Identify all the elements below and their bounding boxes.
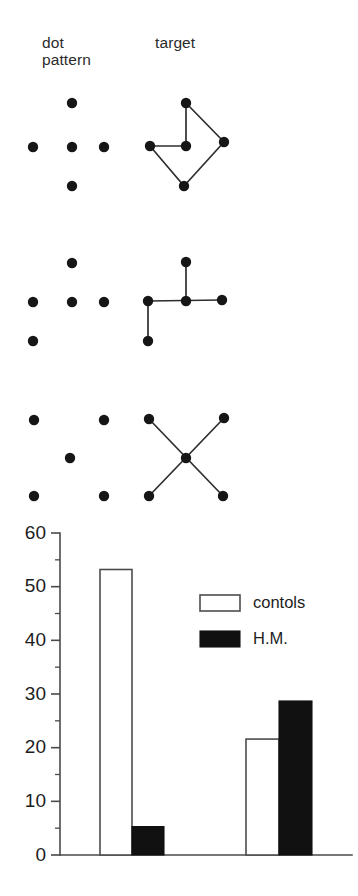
y-tick-label: 20 <box>25 736 46 757</box>
pattern-dot <box>67 181 77 191</box>
pattern-dot <box>29 415 39 425</box>
kite-polygon-target <box>145 98 229 191</box>
pattern-dot <box>67 142 77 152</box>
y-tick-label: 10 <box>25 790 46 811</box>
target-dot <box>181 141 191 151</box>
pattern-dot <box>28 142 38 152</box>
target-dot <box>144 414 154 424</box>
target-dot <box>217 295 227 305</box>
pattern-dot <box>99 491 109 501</box>
target-dot <box>181 296 191 306</box>
bar-filled <box>132 827 164 855</box>
target-dot <box>181 98 191 108</box>
target-dot <box>143 336 153 346</box>
bar-open <box>100 569 132 855</box>
target-link <box>186 103 224 142</box>
bar-chart: 0102030405060 contolsH.M. <box>0 508 358 896</box>
pattern-dot <box>99 415 109 425</box>
y-tick-label: 0 <box>35 844 46 865</box>
chart-bars <box>100 569 312 855</box>
target-dot <box>145 141 155 151</box>
legend-swatch-open <box>200 595 240 611</box>
y-tick-label: 30 <box>25 683 46 704</box>
bar-filled <box>279 701 312 855</box>
target-dot <box>181 453 191 463</box>
pattern-dot <box>28 336 38 346</box>
pattern-dot <box>29 491 39 501</box>
pattern-dot <box>99 297 109 307</box>
legend-swatch-filled <box>200 631 240 647</box>
bar-group <box>100 569 164 855</box>
legend-label: H.M. <box>253 629 288 647</box>
pattern-dot <box>67 297 77 307</box>
target-dot <box>179 181 189 191</box>
legend-label: contols <box>253 593 305 611</box>
stimulus-row <box>28 98 229 191</box>
figure-root: dot pattern target 0102030405060 contols… <box>0 0 358 896</box>
target-dot <box>219 413 229 423</box>
y-tick-label: 50 <box>25 575 46 596</box>
target-dot <box>144 491 154 501</box>
target-dot <box>181 257 191 267</box>
target-dot <box>143 296 153 306</box>
target-dot <box>218 491 228 501</box>
bar-open <box>246 739 279 855</box>
pattern-dot <box>67 258 77 268</box>
tee-5-dots <box>28 258 109 346</box>
y-tick-label: 40 <box>25 629 46 650</box>
pattern-dot <box>28 297 38 307</box>
y-tick-label: 60 <box>25 522 46 543</box>
plus-diamond-5-dots <box>28 98 109 191</box>
x-5-dots <box>29 415 109 501</box>
stimuli-panel <box>0 0 358 510</box>
pattern-dot <box>65 453 75 463</box>
target-dot <box>219 137 229 147</box>
pattern-dot <box>99 142 109 152</box>
tee-junction-target <box>143 257 227 346</box>
stimulus-row <box>29 413 229 501</box>
stimulus-row <box>28 257 227 346</box>
chart-legend: contolsH.M. <box>200 593 305 647</box>
pattern-dot <box>67 98 77 108</box>
bar-group <box>246 701 312 855</box>
x-cross-target <box>144 413 229 501</box>
stimuli-rows <box>28 98 229 501</box>
target-link <box>150 146 184 186</box>
